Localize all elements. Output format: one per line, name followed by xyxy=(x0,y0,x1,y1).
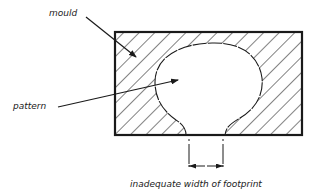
pattern-label: pattern xyxy=(13,102,46,111)
footprint-dimension xyxy=(189,139,223,169)
mould-pattern-diagram xyxy=(0,0,312,194)
mould-label: mould xyxy=(49,9,77,18)
footprint-caption: inadequate width of footprint xyxy=(130,180,262,189)
